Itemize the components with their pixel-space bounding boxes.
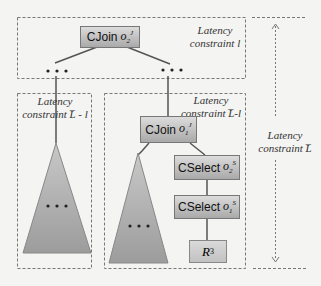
cselect-o1-node: CSelect o1S: [174, 195, 240, 219]
op-name: CSelect: [178, 200, 220, 214]
total-dimension-label: Latency constraint L̅: [249, 129, 321, 155]
op-name: CSelect: [178, 161, 220, 175]
label-line: constraint L̅: [249, 142, 321, 155]
op-symbol: o2S: [223, 159, 236, 175]
op-name: CJoin: [87, 30, 118, 44]
cjoin-o2-node: CJoin o2J: [80, 26, 140, 48]
top-region-label: Latency constraint l: [180, 24, 250, 50]
right-subtree: [109, 153, 168, 263]
op-symbol: o1J: [179, 121, 192, 137]
label-line: Latency: [180, 24, 250, 37]
rel-name: R: [202, 244, 210, 260]
cjoin-o1-node: CJoin o1J: [140, 116, 197, 143]
op-symbol: o1S: [223, 199, 236, 215]
label-line: Latency: [249, 129, 321, 142]
label-line: Latency: [176, 94, 246, 107]
relation-r3-node: R3: [189, 240, 227, 263]
left-region-label: Latency constraint L̅ - l: [16, 95, 94, 121]
left-subtree: [23, 143, 91, 253]
label-line: constraint L̅ - l: [16, 108, 94, 121]
cselect-o2-node: CSelect o2S: [174, 155, 240, 180]
op-symbol: o2J: [121, 29, 134, 45]
rel-sub: 3: [210, 247, 214, 256]
op-name: CJoin: [145, 123, 176, 137]
label-line: constraint l: [180, 37, 250, 50]
label-line: Latency: [16, 95, 94, 108]
